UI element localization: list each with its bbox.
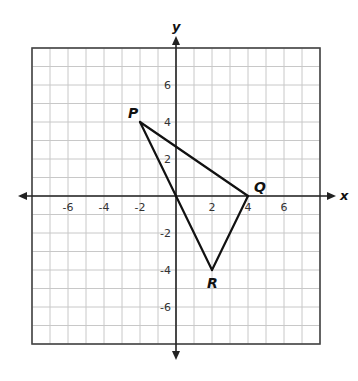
- x-tick-label: 6: [281, 201, 288, 214]
- y-tick-label: -4: [160, 264, 171, 277]
- y-tick-label: 2: [164, 153, 171, 166]
- x-tick-label: 2: [209, 201, 216, 214]
- y-axis-arrow-up-icon: [172, 36, 180, 45]
- y-axis-arrow-down-icon: [172, 351, 180, 360]
- x-tick-label: -2: [135, 201, 146, 214]
- x-tick-label: -4: [99, 201, 110, 214]
- point-label-r: R: [207, 275, 218, 291]
- y-tick-label: 4: [164, 116, 171, 129]
- coordinate-plane: x y -6-4-2246642-2-4-6 PQR: [0, 0, 358, 381]
- x-tick-label: -6: [63, 201, 74, 214]
- y-axis-label: y: [172, 19, 181, 34]
- point-labels: PQR: [128, 105, 266, 291]
- y-tick-label: -6: [160, 301, 171, 314]
- x-axis-arrow-left-icon: [18, 192, 27, 200]
- y-tick-label: -2: [160, 227, 171, 240]
- y-tick-label: 6: [164, 79, 171, 92]
- x-axis-label: x: [339, 188, 349, 203]
- x-axis-arrow-right-icon: [327, 192, 336, 200]
- point-label-q: Q: [254, 179, 266, 195]
- point-label-p: P: [128, 105, 139, 121]
